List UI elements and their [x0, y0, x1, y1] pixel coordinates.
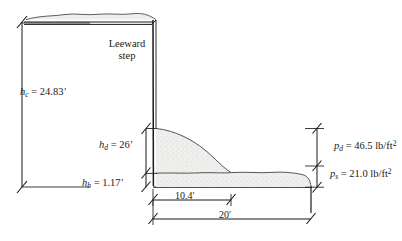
leeward-step-line1: Leeward: [109, 38, 146, 49]
leeward-step-annotation: Leewardstep: [98, 38, 156, 62]
hb-value: = 1.17: [94, 177, 121, 188]
pd-exponent: 2: [393, 139, 397, 148]
hc-label: hc = 24.83′: [20, 86, 66, 100]
diagram-canvas: [0, 0, 402, 241]
hd-unit: ′: [130, 139, 132, 150]
pd-value: = 46.5 lb/ft: [346, 140, 393, 151]
ps-exponent: 2: [388, 167, 392, 176]
drift-width-label: 10.4′: [175, 190, 195, 202]
hb-label: hb = 1.17′: [82, 177, 123, 191]
pd-label: pd = 46.5 lb/ft2: [334, 140, 396, 154]
leeward-step-line2: step: [119, 50, 136, 61]
hd-subscript: d: [104, 143, 108, 152]
upper-roof-snow-surface: [26, 13, 156, 19]
balanced-snow-region: [156, 172, 311, 187]
hc-value: = 24.83: [31, 86, 63, 97]
hc-unit: ′: [63, 86, 65, 97]
hd-label: hd = 26′: [99, 139, 132, 153]
hd-value: = 26: [111, 139, 130, 150]
hb-subscript: b: [87, 181, 91, 190]
ps-subscript: s: [335, 172, 338, 181]
roof-width-label: 20′: [219, 209, 231, 221]
hc-subscript: c: [25, 90, 28, 99]
ps-value: = 21.0 lb/ft: [341, 168, 388, 179]
snow-drift-region: [156, 129, 231, 174]
pd-subscript: d: [339, 144, 343, 153]
hb-unit: ′: [121, 177, 123, 188]
snow-drift-diagram: hc = 24.83′ Leewardstep hd = 26′ hb = 1.…: [0, 0, 402, 241]
ps-label: ps = 21.0 lb/ft2: [330, 168, 392, 182]
